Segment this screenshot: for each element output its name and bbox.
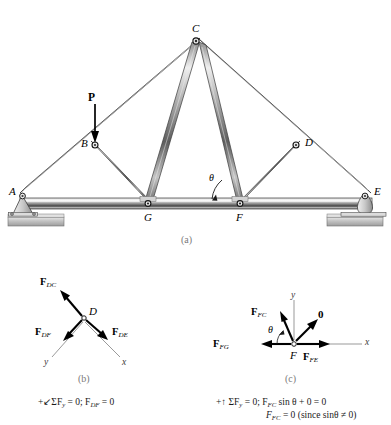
- fbd-c-eq1-b: = 0; F: [242, 397, 267, 407]
- fbd-c-eq2-sub: FC: [272, 414, 281, 421]
- fbd-b-force-label-FDF: FDF: [35, 327, 51, 339]
- fbd-c-force-label-FFE: FFE: [303, 352, 318, 364]
- member-AE-bottom-chord: [20, 198, 372, 209]
- fbd-c-force-FFE-arrow: [297, 340, 330, 348]
- fbd-c-eq1-c: sin θ + 0 = 0: [276, 397, 326, 407]
- fbd-b-force-FDC-arrow: [60, 290, 82, 316]
- fbd-b-joint-dot: [82, 316, 86, 320]
- fbd-b-eq-rest: = 0; F: [65, 397, 90, 407]
- fbd-c-angle-label-theta: θ: [268, 325, 273, 335]
- fbd-b-axis-y: [52, 322, 83, 357]
- caption-a: (a): [181, 235, 192, 245]
- fbd-b-force-FDF-arrow: [63, 320, 82, 341]
- fbd-c-equation-line2: FFC = 0 (since sinθ ≠ 0): [266, 409, 356, 422]
- fbd-c-eq2-b: = 0 (since sinθ ≠ 0): [281, 410, 357, 420]
- fbd-c-eq1-sigma: ΣF: [228, 397, 239, 407]
- member-CE: [198, 38, 371, 193]
- joint-label-B: B: [81, 138, 88, 149]
- member-CG: [145, 42, 199, 203]
- caption-c: (c): [285, 374, 296, 384]
- fbd-c-zero-force-label: 0: [318, 309, 324, 320]
- member-DF: [238, 141, 300, 203]
- joint-label-A: A: [9, 186, 16, 197]
- fbd-c-axis-label-y: y: [291, 291, 295, 301]
- fbd-b-axis-label-y: y: [44, 358, 48, 368]
- fbd-b-joint-label-D: D: [89, 306, 97, 317]
- joint-label-E: E: [374, 186, 381, 197]
- fbd-b-force-sub-FDF: DF: [41, 331, 50, 339]
- fbd-c-force-label-FFC: FFC: [251, 307, 266, 319]
- load-label-P: P: [88, 92, 95, 104]
- fbd-b-eq-sigma: ΣF: [51, 397, 62, 407]
- joint-label-F: F: [236, 212, 243, 223]
- fbd-b-equation: +↙ΣFy = 0; FDF = 0: [38, 396, 114, 409]
- fbd-c-force-zero-arrow: [296, 319, 318, 341]
- fbd-c-force-label-FFG: FFG: [213, 339, 229, 351]
- joint-label-G: G: [144, 212, 152, 223]
- fbd-b-force-sub-FDE: DE: [118, 331, 127, 339]
- fbd-c-force-sub-FFE: FE: [309, 356, 318, 364]
- joint-label-D: D: [305, 137, 313, 148]
- fbd-c-axis-label-x: x: [365, 338, 369, 348]
- fbd-c-eq1-sub2: FC: [268, 401, 277, 408]
- fbd-b-axis-label-x: x: [122, 358, 126, 368]
- fbd-c-joint-label-F: F: [290, 350, 297, 361]
- fbd-b-diagram: [52, 290, 120, 357]
- fbd-c-force-sub-FFC: FC: [257, 311, 266, 319]
- fbd-c-angle-arc-theta: [277, 330, 285, 344]
- fbd-b-eq-tail: = 0: [99, 397, 114, 407]
- truss-angle-label-theta: θ: [209, 173, 214, 183]
- fbd-c-diagram: [261, 300, 362, 348]
- member-BG: [91, 141, 152, 203]
- fbd-c-force-FFG-arrow: [261, 340, 291, 348]
- caption-b: (b): [78, 374, 90, 384]
- fbd-c-equation-line1: +↑ ΣFy = 0; FFC sin θ + 0 = 0: [216, 396, 326, 409]
- fbd-b-force-label-FDE: FDE: [112, 327, 128, 339]
- member-CF: [199, 42, 244, 203]
- fbd-b-force-label-FDC: FDC: [40, 277, 56, 289]
- fbd-c-force-FFC-arrow: [280, 311, 293, 341]
- fbd-c-joint-dot: [292, 342, 297, 347]
- fbd-c-force-sub-FFG: FG: [219, 343, 228, 351]
- load-arrow-P: [91, 104, 99, 143]
- figure-canvas: [0, 0, 391, 425]
- joint-pins: [92, 38, 299, 207]
- statics-truss-figure: A B C D E F G P θ (a) D FDC FDF FDE y x …: [0, 0, 391, 425]
- fbd-c-eq1-prefix: +↑: [216, 397, 228, 407]
- joint-label-C: C: [192, 23, 199, 34]
- fbd-b-force-FDE-arrow: [86, 320, 108, 340]
- fbd-b-force-sub-FDC: DC: [46, 281, 56, 289]
